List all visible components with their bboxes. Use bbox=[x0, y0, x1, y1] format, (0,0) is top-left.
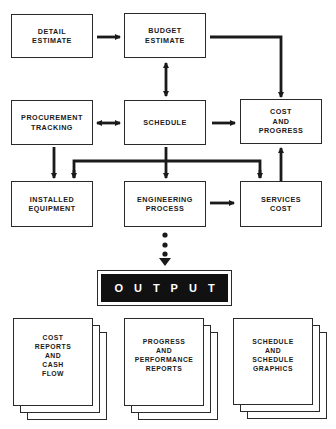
node-installed-equipment: INSTALLED EQUIPMENT bbox=[11, 181, 93, 227]
output-label: OUTPUT bbox=[103, 282, 225, 294]
output-schedule-graphics: SCHEDULE AND SCHEDULE GRAPHICS bbox=[233, 318, 313, 405]
node-schedule: SCHEDULE bbox=[124, 100, 206, 145]
node-label: SCHEDULE bbox=[143, 118, 187, 128]
node-services-cost: SERVICES COST bbox=[240, 181, 322, 227]
node-budget-estimate: BUDGET ESTIMATE bbox=[124, 13, 206, 58]
output-doc-label: COST REPORTS AND CASH FLOW bbox=[35, 333, 71, 378]
output-doc-label: PROGRESS AND PERFORMANCE REPORTS bbox=[135, 337, 194, 373]
node-detail-estimate: DETAIL ESTIMATE bbox=[11, 14, 93, 58]
node-label: SERVICES COST bbox=[261, 195, 301, 214]
node-procurement-tracking: PROCUREMENT TRACKING bbox=[11, 100, 93, 145]
dotted-connector bbox=[159, 232, 171, 266]
node-engineering-process: ENGINEERING PROCESS bbox=[124, 181, 206, 227]
node-label: ENGINEERING PROCESS bbox=[137, 195, 193, 214]
output-doc-label: SCHEDULE AND SCHEDULE GRAPHICS bbox=[252, 337, 293, 373]
arrow-budget-to-cost bbox=[210, 37, 281, 97]
node-label: PROCUREMENT TRACKING bbox=[21, 113, 83, 132]
output-progress-reports: PROGRESS AND PERFORMANCE REPORTS bbox=[124, 318, 204, 406]
node-label: INSTALLED EQUIPMENT bbox=[28, 195, 75, 214]
node-label: BUDGET ESTIMATE bbox=[145, 26, 185, 45]
node-cost-and-progress: COST AND PROGRESS bbox=[240, 99, 322, 144]
node-label: COST AND PROGRESS bbox=[259, 107, 304, 136]
output-banner: OUTPUT bbox=[101, 274, 228, 302]
node-label: DETAIL ESTIMATE bbox=[32, 27, 72, 46]
output-cost-reports: COST REPORTS AND CASH FLOW bbox=[13, 318, 93, 406]
